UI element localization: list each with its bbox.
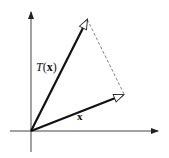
label-t-of-x-prefix: T bbox=[36, 60, 43, 74]
diagram-svg bbox=[0, 0, 169, 158]
label-t-of-x-close: ) bbox=[53, 60, 57, 74]
diagram-canvas: T(x) x bbox=[0, 0, 169, 158]
label-x: x bbox=[77, 110, 83, 122]
dashed-connector bbox=[87, 19, 124, 94]
label-t-of-x: T(x) bbox=[36, 60, 57, 75]
